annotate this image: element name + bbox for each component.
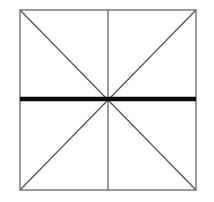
geometric-figure — [0, 0, 214, 202]
figure-container — [0, 0, 214, 202]
